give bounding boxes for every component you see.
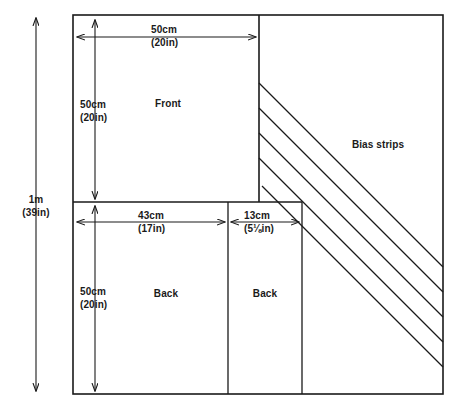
back-height-label: 50cm (20in) [80,285,107,311]
front-width-value: 50cm [151,24,177,35]
panel-divider-lines [73,15,302,394]
overall-height-alt: (39in) [22,206,49,219]
front-height-label: 50cm (20in) [80,98,107,124]
bias-strip-lines [259,83,443,367]
front-width-label: 50cm (20in) [151,23,178,49]
front-width-alt: (20in) [151,36,178,49]
outer-fabric-rectangle [73,15,443,394]
overall-height-value: 1m [29,194,44,205]
front-height-alt: (20in) [80,111,107,124]
fabric-cutting-layout-diagram: 1m (39in) 50cm (20in) 50cm (20in) 43cm (… [0,0,469,417]
diagram-canvas [0,0,469,417]
back-left-width-label: 43cm (17in) [138,209,165,235]
back-height-alt: (20in) [80,298,107,311]
back-right-width-alt: (5⅛in) [244,222,274,235]
back-right-width-label: 13cm (5⅛in) [244,209,274,235]
front-panel-label: Front [155,98,181,109]
back-left-width-alt: (17in) [138,222,165,235]
back-left-width-value: 43cm [138,210,164,221]
overall-height-label: 1m (39in) [22,193,49,219]
back-height-value: 50cm [80,286,106,297]
front-height-value: 50cm [80,99,106,110]
back-right-width-value: 13cm [244,210,270,221]
back-left-panel-label: Back [154,288,178,299]
bias-strips-label: Bias strips [352,139,404,150]
back-right-panel-label: Back [253,288,277,299]
